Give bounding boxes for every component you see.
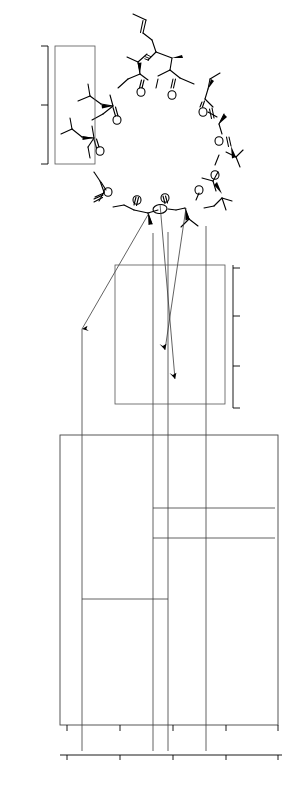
- panel-c-frame: [55, 46, 95, 164]
- panel-c: [0, 0, 120, 185]
- panel-d-frame: [115, 265, 225, 404]
- panel-a: [0, 655, 292, 795]
- figure-root: [0, 0, 292, 795]
- panel-d: [105, 240, 292, 425]
